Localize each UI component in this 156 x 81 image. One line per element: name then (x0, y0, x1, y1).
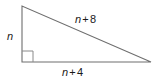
right-triangle-figure: n n+8 n+4 (0, 0, 156, 81)
horizontal-leg-constant: 4 (77, 66, 83, 78)
horizontal-leg-label: n+4 (62, 67, 83, 78)
vertical-leg-variable: n (7, 30, 13, 42)
right-angle-marker-icon (22, 51, 33, 62)
hypotenuse-constant: 8 (90, 13, 96, 25)
hypotenuse-label: n+8 (75, 14, 96, 25)
hypotenuse-operator: + (81, 13, 90, 25)
vertical-leg-label: n (7, 31, 13, 42)
horizontal-leg-operator: + (68, 66, 77, 78)
